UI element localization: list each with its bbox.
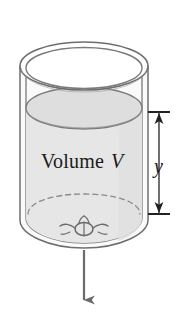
height-label: y [154, 156, 163, 176]
volume-label-word: Volume [41, 150, 104, 172]
figure-container: VolumeV y [0, 0, 175, 314]
liquid-surface [26, 87, 142, 129]
tank-rim [20, 42, 148, 92]
volume-label: VolumeV [41, 151, 123, 171]
volume-label-symbol: V [104, 150, 123, 172]
